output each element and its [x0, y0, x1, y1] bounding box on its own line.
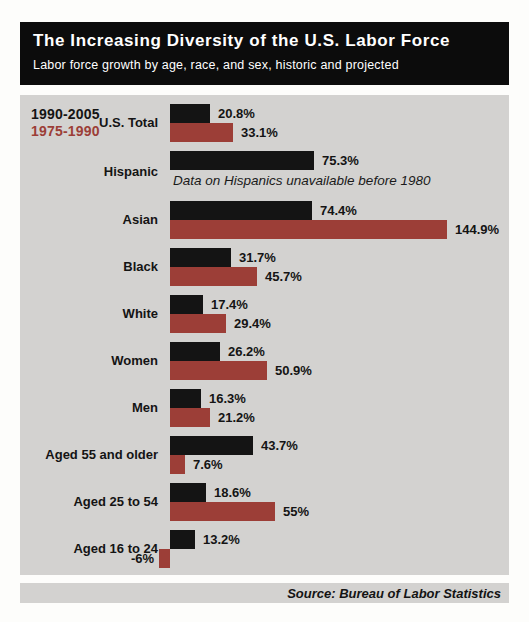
chart-group: Men16.3%21.2% [20, 389, 509, 427]
bar-stack: 20.8%33.1% [170, 104, 509, 142]
value-label: 144.9% [455, 222, 499, 237]
header: The Increasing Diversity of the U.S. Lab… [20, 22, 509, 85]
bar-1990-2005 [170, 201, 312, 220]
value-label: 18.6% [214, 485, 251, 500]
bar-row: 43.7% [170, 436, 509, 455]
category-label: Hispanic [20, 151, 170, 192]
bar-row: 74.4% [170, 201, 509, 220]
bar-row: 33.1% [170, 123, 509, 142]
bar-1990-2005 [170, 342, 220, 361]
category-label: Men [20, 389, 170, 427]
bar-row: 26.2% [170, 342, 509, 361]
bar-1975-1990 [170, 220, 447, 239]
bar-stack: 16.3%21.2% [170, 389, 509, 427]
value-label: 26.2% [228, 344, 265, 359]
bar-1975-1990 [170, 267, 257, 286]
bar-row: 21.2% [170, 408, 509, 427]
bar-1975-1990 [170, 408, 210, 427]
value-label: 7.6% [193, 457, 223, 472]
bar-stack: 43.7%7.6% [170, 436, 509, 474]
bar-row: 20.8% [170, 104, 509, 123]
chart-group: White17.4%29.4% [20, 295, 509, 333]
legend-item-1975-1990: 1975-1990 [31, 123, 100, 140]
bar-row: 16.3% [170, 389, 509, 408]
bar-1975-1990 [170, 123, 233, 142]
bar-1990-2005 [170, 483, 206, 502]
bar-row: 55% [170, 502, 509, 521]
chart-group: Aged 55 and older43.7%7.6% [20, 436, 509, 474]
bar-stack: 17.4%29.4% [170, 295, 509, 333]
bar-row: 29.4% [170, 314, 509, 333]
bar-1975-1990 [170, 361, 267, 380]
category-label: Asian [20, 201, 170, 239]
chart-group: Women26.2%50.9% [20, 342, 509, 380]
bar-row: -6% [170, 549, 509, 568]
category-label: Black [20, 248, 170, 286]
bar-row: 17.4% [170, 295, 509, 314]
negative-bar-wrap: -6% [131, 549, 170, 568]
bar-stack: 18.6%55% [170, 483, 509, 521]
bar-row: 18.6% [170, 483, 509, 502]
bar-1975-1990 [159, 549, 170, 568]
value-label: 43.7% [261, 438, 298, 453]
value-label: -6% [131, 551, 154, 566]
bar-1990-2005 [170, 295, 203, 314]
value-label: 16.3% [209, 391, 246, 406]
legend-item-1990-2005: 1990-2005 [31, 106, 100, 123]
bar-chart: U.S. Total20.8%33.1%Hispanic75.3%Data on… [20, 104, 509, 568]
value-label: 45.7% [265, 269, 302, 284]
page-subtitle: Labor force growth by age, race, and sex… [33, 58, 496, 72]
chart-group: Asian74.4%144.9% [20, 201, 509, 239]
value-label: 29.4% [234, 316, 271, 331]
bar-row: 144.9% [170, 220, 509, 239]
bar-1975-1990 [170, 455, 185, 474]
bar-1975-1990 [170, 502, 275, 521]
chart-group: Hispanic75.3%Data on Hispanics unavailab… [20, 151, 509, 192]
bar-1990-2005 [170, 104, 210, 123]
category-label: White [20, 295, 170, 333]
bar-1990-2005 [170, 389, 201, 408]
bar-1990-2005 [170, 530, 195, 549]
value-label: 21.2% [218, 410, 255, 425]
value-label: 20.8% [218, 106, 255, 121]
bar-1990-2005 [170, 151, 314, 170]
chart-group: Black31.7%45.7% [20, 248, 509, 286]
value-label: 13.2% [203, 532, 240, 547]
value-label: 75.3% [322, 153, 359, 168]
bar-1990-2005 [170, 248, 231, 267]
chart-group: Aged 16 to 2413.2%-6% [20, 530, 509, 568]
page-title: The Increasing Diversity of the U.S. Lab… [33, 31, 496, 51]
value-label: 55% [283, 504, 309, 519]
bar-stack: 31.7%45.7% [170, 248, 509, 286]
value-label: 31.7% [239, 250, 276, 265]
bar-row: 45.7% [170, 267, 509, 286]
bar-1990-2005 [170, 436, 253, 455]
bar-stack: 74.4%144.9% [170, 201, 509, 239]
chart-group: Aged 25 to 5418.6%55% [20, 483, 509, 521]
chart-panel: 1990-2005 1975-1990 U.S. Total20.8%33.1%… [20, 95, 509, 575]
bar-stack: 26.2%50.9% [170, 342, 509, 380]
legend: 1990-2005 1975-1990 [31, 106, 100, 140]
bar-row: 50.9% [170, 361, 509, 380]
category-label: Aged 55 and older [20, 436, 170, 474]
bar-stack: 75.3%Data on Hispanics unavailable befor… [170, 151, 509, 192]
value-label: 50.9% [275, 363, 312, 378]
infographic: The Increasing Diversity of the U.S. Lab… [0, 0, 529, 622]
value-label: 74.4% [320, 203, 357, 218]
bar-1975-1990 [170, 314, 226, 333]
source-bar: Source: Bureau of Labor Statistics [20, 583, 509, 603]
value-label: 33.1% [241, 125, 278, 140]
bar-row: 31.7% [170, 248, 509, 267]
source-text: Source: Bureau of Labor Statistics [287, 586, 501, 601]
value-label: 17.4% [211, 297, 248, 312]
bar-row: 7.6% [170, 455, 509, 474]
bar-row: 75.3% [170, 151, 509, 170]
category-label: Women [20, 342, 170, 380]
bar-stack: 13.2%-6% [170, 530, 509, 568]
bar-row: 13.2% [170, 530, 509, 549]
category-label: Aged 25 to 54 [20, 483, 170, 521]
chart-note: Data on Hispanics unavailable before 198… [170, 170, 509, 192]
